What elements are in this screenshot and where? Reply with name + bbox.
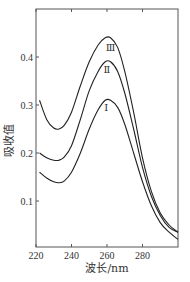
absorbance-chart: 220240260280 0.10.20.30.4 ⅢⅡⅠ 波长/nm 吸收值 bbox=[0, 0, 190, 282]
y-tick-label: 0.3 bbox=[21, 100, 34, 111]
x-axis-title: 波长/nm bbox=[85, 262, 129, 275]
x-tick-label: 220 bbox=[29, 250, 44, 261]
x-axis-ticks: 220240260280 bbox=[29, 9, 151, 261]
x-tick-label: 240 bbox=[64, 250, 79, 261]
x-tick-label: 260 bbox=[100, 250, 115, 261]
series-label: Ⅱ bbox=[104, 64, 111, 75]
x-tick-label: 280 bbox=[135, 250, 150, 261]
series-line-1 bbox=[40, 99, 178, 239]
y-tick-label: 0.2 bbox=[21, 148, 34, 159]
series-label: Ⅰ bbox=[104, 102, 108, 113]
series-label: Ⅲ bbox=[106, 42, 116, 53]
y-tick-label: 0.1 bbox=[21, 196, 34, 207]
y-axis-title: 吸收值 bbox=[2, 124, 16, 157]
y-tick-label: 0.4 bbox=[21, 52, 34, 63]
